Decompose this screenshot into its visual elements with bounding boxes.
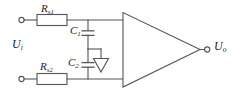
terminal-input-top[interactable] [19, 17, 24, 22]
label-capacitor-top: C1 [70, 25, 81, 36]
ground-branch [88, 49, 109, 72]
label-input-voltage: Ui [12, 38, 23, 50]
label-output-voltage: Uo [214, 40, 226, 52]
output-branch [200, 47, 210, 52]
schematic-canvas [0, 0, 232, 97]
label-resistor-bottom: Rs2 [40, 61, 53, 72]
terminal-input-bottom[interactable] [19, 76, 24, 81]
circuit-diagram: Rs1 Rs2 C1 C2 Ui Uo [0, 0, 232, 97]
bottom-input-branch [19, 74, 123, 85]
label-capacitor-bottom: C2 [68, 57, 79, 68]
capacitor-c2-group [82, 49, 95, 79]
label-resistor-top: Rs1 [41, 3, 54, 14]
resistor-rs1 [37, 15, 67, 26]
resistor-rs2 [37, 74, 67, 85]
capacitor-c1-group [82, 20, 95, 49]
opamp-triangle [123, 13, 200, 88]
ground-icon [94, 59, 109, 73]
terminal-output[interactable] [205, 47, 210, 52]
opamp-group [123, 13, 200, 88]
